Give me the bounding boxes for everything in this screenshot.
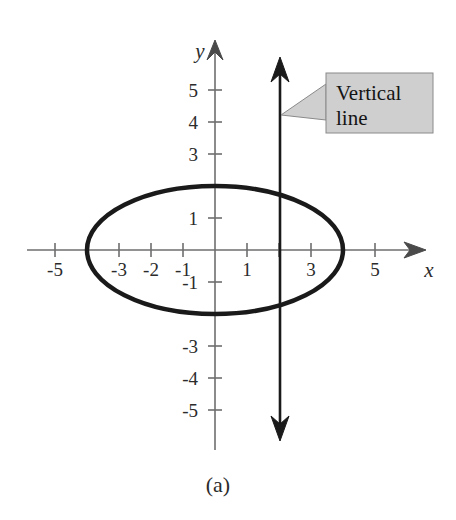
vertical-line-test-figure: -5 -3 -2 -1 1 3 5 5 4 3 1 -1 -3 -4 -5 x … [0,0,456,520]
x-tick-label--2: -2 [143,259,159,280]
figure-caption: (a) [206,472,230,497]
y-tick-label-4: 4 [189,112,199,133]
callout-line-1: Vertical [336,81,401,105]
x-axis-label: x [423,258,434,282]
y-axis-label: y [193,39,205,63]
callout-tail [281,84,326,120]
callout-line-2: line [336,106,368,130]
y-tick-label-1: 1 [189,208,199,229]
x-tick-label--3: -3 [111,259,127,280]
x-tick-label-5: 5 [370,259,380,280]
y-tick-label--5: -5 [182,400,198,421]
y-tick-label--3: -3 [182,336,198,357]
x-tick-label--5: -5 [47,259,63,280]
y-tick-label-3: 3 [189,144,199,165]
callout-group: Vertical line [281,73,433,133]
y-tick-label--4: -4 [182,368,198,389]
x-tick-label-3: 3 [306,259,316,280]
y-tick-label--1: -1 [182,272,198,293]
coordinate-plot: -5 -3 -2 -1 1 3 5 5 4 3 1 -1 -3 -4 -5 x … [0,0,456,520]
y-tick-label-5: 5 [189,80,199,101]
x-tick-label-1: 1 [242,259,252,280]
